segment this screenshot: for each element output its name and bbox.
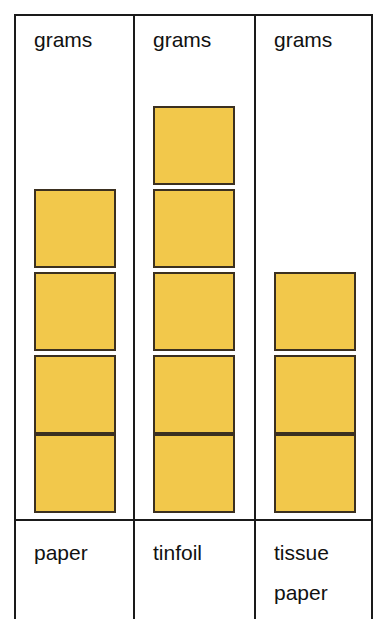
unit-square [34, 189, 116, 268]
category-label-tissue-paper: tissue paper [256, 521, 375, 621]
category-label-line: paper [34, 533, 133, 573]
column-header-paper: grams [16, 16, 133, 64]
unit-square [274, 272, 356, 351]
unit-square [153, 434, 235, 513]
unit-square [153, 106, 235, 185]
unit-square [34, 272, 116, 351]
unit-stack-tissue-paper [256, 268, 375, 513]
column-header-tissue-paper: grams [256, 16, 375, 64]
category-label-line: paper [274, 573, 375, 613]
column-tinfoil: grams [135, 16, 254, 519]
unit-square [153, 272, 235, 351]
column-paper: grams [16, 16, 133, 519]
unit-square [34, 434, 116, 513]
category-label-line: tinfoil [153, 533, 254, 573]
unit-square [274, 434, 356, 513]
unit-square [153, 189, 235, 268]
category-label-paper: paper [16, 521, 133, 621]
unit-stack-paper [16, 185, 133, 513]
category-label-tinfoil: tinfoil [135, 521, 254, 621]
pictograph-table: grams grams grams [14, 14, 373, 619]
category-label-line: tissue [274, 533, 375, 573]
unit-square [153, 355, 235, 434]
column-header-tinfoil: grams [135, 16, 254, 64]
column-tissue-paper: grams [256, 16, 375, 519]
unit-stack-tinfoil [135, 102, 254, 513]
unit-square [274, 355, 356, 434]
unit-square [34, 355, 116, 434]
